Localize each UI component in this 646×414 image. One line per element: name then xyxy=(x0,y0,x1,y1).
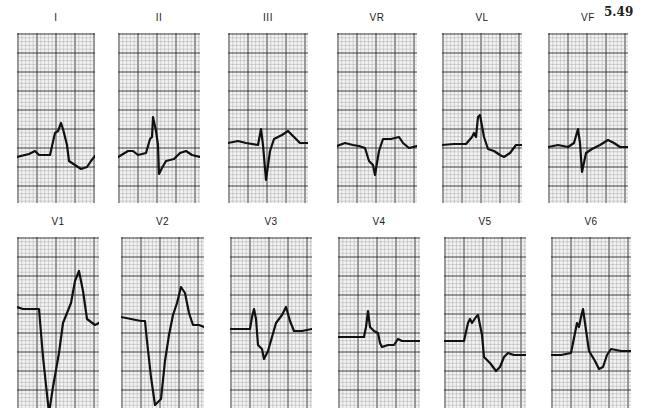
ecg-strip xyxy=(17,237,99,408)
lead-label: V3 xyxy=(230,216,312,227)
lead-label: VL xyxy=(442,12,522,23)
ecg-lead-v5: V5 xyxy=(444,216,526,409)
lead-label: II xyxy=(118,12,200,23)
lead-label: V5 xyxy=(444,216,526,227)
lead-label: V6 xyxy=(551,216,631,227)
ecg-lead-ii: II xyxy=(118,12,200,204)
ecg-lead-i: I xyxy=(17,12,95,204)
ecg-strip xyxy=(228,33,308,203)
ecg-lead-v3: V3 xyxy=(230,216,312,409)
lead-label: VF xyxy=(548,12,628,23)
ecg-lead-v2: V2 xyxy=(121,216,204,409)
ecg-lead-v6: V6 xyxy=(551,216,631,409)
ecg-strip xyxy=(230,237,312,408)
ecg-lead-v1: V1 xyxy=(17,216,99,409)
ecg-strip xyxy=(551,237,631,408)
ecg-strip xyxy=(118,33,200,203)
ecg-strip xyxy=(17,33,95,203)
ecg-strip xyxy=(444,237,526,408)
ecg-strip xyxy=(548,33,628,203)
ecg-lead-vr: VR xyxy=(337,12,417,204)
lead-label: V2 xyxy=(121,216,204,227)
ecg-lead-vf: VF xyxy=(548,12,628,204)
ecg-lead-iii: III xyxy=(228,12,308,204)
ecg-strip xyxy=(121,237,204,408)
lead-label: V4 xyxy=(338,216,420,227)
lead-label: I xyxy=(17,12,95,23)
ecg-lead-v4: V4 xyxy=(338,216,420,409)
lead-label: VR xyxy=(337,12,417,23)
ecg-strip xyxy=(337,33,417,203)
ecg-strip xyxy=(442,33,522,203)
lead-label: III xyxy=(228,12,308,23)
ecg-lead-vl: VL xyxy=(442,12,522,204)
lead-label: V1 xyxy=(17,216,99,227)
ecg-strip xyxy=(338,237,420,408)
